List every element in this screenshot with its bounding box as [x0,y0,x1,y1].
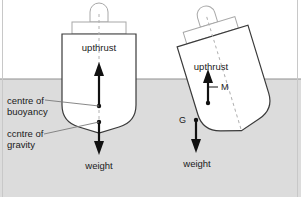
buoyancy-label-line1: centre of [7,95,44,106]
right-ship-upthrust-label: upthrust [194,61,229,72]
right-ship-weight-label: weight [182,158,211,169]
buoyancy-label-line2: buoyancy [7,106,48,117]
left-ship-upthrust-label: upthrust [82,42,117,53]
metacentre-label: M [221,82,229,92]
diagram-canvas: upthrust weight centre of buoyancy ccntr… [0,0,301,197]
physics-diagram-ship-stability: upthrust weight centre of buoyancy ccntr… [0,0,301,197]
gravity-label-line2: gravity [7,139,35,150]
gravity-label-line1: ccntre of [7,128,44,139]
left-ship-weight-label: weight [84,160,113,171]
left-ship-funnel [90,3,108,22]
gravity-point-label: G [179,115,186,125]
